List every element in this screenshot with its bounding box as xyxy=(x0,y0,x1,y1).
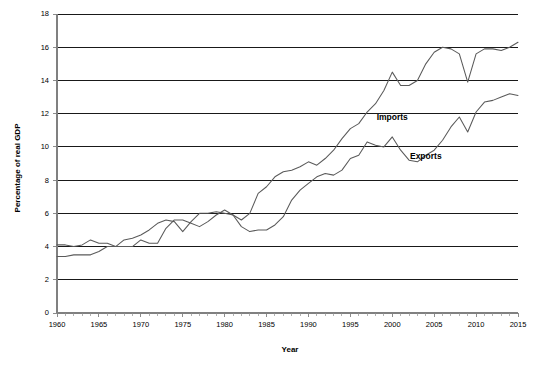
x-tick-label-1995: 1995 xyxy=(342,320,359,329)
data-series xyxy=(57,42,518,256)
x-tick-label-1965: 1965 xyxy=(91,320,108,329)
chart-container: 024681012141618 196019651970197519801985… xyxy=(0,0,535,369)
tick-marks xyxy=(53,14,518,317)
x-axis-title: Year xyxy=(282,345,299,354)
series-labels: ImportsExports xyxy=(377,112,442,160)
y-tick-label-2: 2 xyxy=(45,275,49,284)
x-tick-label-1985: 1985 xyxy=(258,320,275,329)
y-tick-label-18: 18 xyxy=(41,9,49,18)
y-tick-label-12: 12 xyxy=(41,109,49,118)
x-tick-label-1980: 1980 xyxy=(216,320,233,329)
series-label-imports: Imports xyxy=(377,112,408,122)
y-axis-tick-labels: 024681012141618 xyxy=(41,9,49,317)
x-tick-label-2015: 2015 xyxy=(510,320,527,329)
series-label-exports: Exports xyxy=(410,151,442,161)
axes xyxy=(57,14,518,313)
x-axis-tick-labels: 1960196519701975198019851990199520002005… xyxy=(49,320,527,329)
x-tick-label-1990: 1990 xyxy=(300,320,317,329)
x-tick-label-2005: 2005 xyxy=(426,320,443,329)
x-tick-label-1975: 1975 xyxy=(174,320,191,329)
x-tick-label-2010: 2010 xyxy=(468,320,485,329)
series-line-imports xyxy=(57,42,518,256)
line-chart: 024681012141618 196019651970197519801985… xyxy=(0,0,535,369)
series-line-exports xyxy=(57,94,518,247)
y-tick-label-4: 4 xyxy=(45,242,49,251)
y-tick-label-10: 10 xyxy=(41,142,49,151)
y-axis-title: Percentage of real GDP xyxy=(13,123,22,213)
y-tick-label-16: 16 xyxy=(41,43,49,52)
y-tick-label-8: 8 xyxy=(45,176,49,185)
y-tick-label-0: 0 xyxy=(45,308,49,317)
y-tick-label-6: 6 xyxy=(45,209,49,218)
y-tick-label-14: 14 xyxy=(41,76,49,85)
x-tick-label-1960: 1960 xyxy=(49,320,66,329)
x-tick-label-2000: 2000 xyxy=(384,320,401,329)
x-tick-label-1970: 1970 xyxy=(132,320,149,329)
